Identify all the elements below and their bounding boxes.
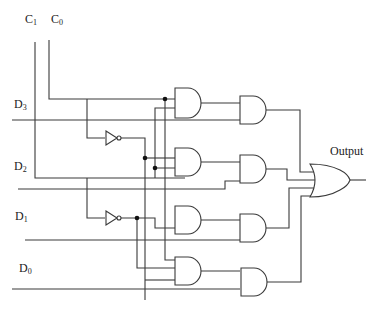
wire-c1-to-not (87, 178, 105, 218)
junction-not-c1 (135, 216, 140, 221)
data-wires (12, 120, 240, 289)
and-gate-decoder-1 (175, 88, 201, 118)
wire-d2 (18, 181, 240, 189)
wire-and3-to-or (266, 110, 315, 172)
wire-c0-true-vertical (165, 99, 175, 260)
junction-not-c0 (143, 156, 148, 161)
or-gate (310, 164, 350, 197)
wire-and0-to-or (267, 196, 313, 282)
and-gate-decoder-3 (175, 206, 201, 234)
and-gate-decoder-4 (175, 257, 201, 285)
not-gate-1 (106, 131, 121, 145)
not-gate-2 (106, 211, 121, 225)
circuit-diagram (0, 0, 382, 309)
and-gate-decoder-2 (175, 148, 201, 176)
and-gate-data-1 (240, 214, 266, 242)
wire-c0-to-not (87, 99, 105, 138)
wire-not-c0 (121, 138, 145, 300)
select-wires (35, 40, 185, 300)
wire-and2-to-or (266, 169, 317, 180)
wire-c0 (49, 40, 175, 99)
and-gate-data-0 (241, 268, 267, 296)
and-gate-data-2 (240, 155, 266, 183)
wire-not-c1-to-and3 (121, 218, 175, 228)
wire-and1-to-or (266, 188, 316, 228)
and-gate-data-3 (240, 96, 266, 124)
junction-c1 (153, 166, 158, 171)
junction-c0 (163, 97, 168, 102)
